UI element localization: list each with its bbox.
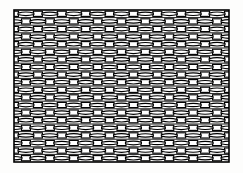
weave-connector bbox=[201, 87, 210, 92]
weave-connector bbox=[129, 102, 138, 107]
weave-strand bbox=[78, 126, 94, 130]
weave-connector bbox=[93, 140, 102, 145]
weave-strand bbox=[66, 103, 82, 107]
weave-strand bbox=[185, 149, 201, 152]
weave-strand bbox=[185, 43, 201, 46]
weave-connector bbox=[213, 64, 222, 69]
weave-strand bbox=[90, 12, 106, 15]
weave-strand bbox=[66, 12, 82, 16]
weave-connector bbox=[21, 19, 30, 24]
weave-connector bbox=[33, 102, 42, 107]
weave-connector bbox=[105, 11, 114, 16]
weave-strand bbox=[197, 141, 213, 144]
weave-strand bbox=[30, 35, 46, 39]
weave-strand bbox=[42, 103, 58, 106]
weave-connector bbox=[105, 57, 114, 62]
weave-connector bbox=[189, 64, 198, 69]
weave-connector bbox=[21, 110, 30, 115]
weave-strand bbox=[30, 65, 46, 69]
weave-strand bbox=[209, 103, 225, 107]
weave-strand bbox=[102, 96, 118, 99]
weave-strand bbox=[209, 42, 225, 46]
weave-connector bbox=[81, 42, 90, 47]
weave-strand bbox=[90, 58, 106, 61]
weave-connector bbox=[57, 42, 66, 47]
weave-connector bbox=[117, 140, 126, 145]
weave-connector bbox=[21, 140, 30, 145]
weave-strand bbox=[54, 50, 70, 53]
weave-connector bbox=[189, 80, 198, 85]
weave-connector bbox=[21, 49, 30, 54]
weave-connector bbox=[189, 34, 198, 39]
weave-strand bbox=[18, 88, 34, 92]
weave-strand bbox=[18, 134, 34, 138]
weave-connector bbox=[129, 118, 138, 123]
weave-connector bbox=[117, 64, 126, 69]
weave-connector bbox=[81, 148, 90, 153]
weave-strand bbox=[185, 134, 201, 137]
weave-connector bbox=[165, 80, 174, 85]
weave-strand bbox=[18, 149, 34, 153]
weave-connector bbox=[153, 87, 162, 92]
weave-strand bbox=[114, 103, 130, 107]
weave-connector bbox=[93, 95, 102, 100]
weave-connector bbox=[141, 156, 150, 161]
weave-strand bbox=[161, 42, 177, 46]
weave-connector bbox=[105, 72, 114, 77]
weave-strand bbox=[54, 141, 70, 144]
weave-strand bbox=[42, 119, 58, 122]
weave-connector bbox=[201, 118, 210, 123]
weave-connector bbox=[33, 72, 42, 77]
weave-strand bbox=[161, 27, 177, 31]
weave-strand bbox=[161, 118, 177, 122]
weave-connector bbox=[153, 118, 162, 123]
weave-strand bbox=[66, 118, 82, 122]
weave-strand bbox=[197, 50, 213, 53]
weave-strand bbox=[209, 58, 225, 62]
weave-connector bbox=[57, 148, 66, 153]
weave-connector bbox=[45, 125, 54, 130]
weave-strand bbox=[149, 20, 165, 23]
weave-connector bbox=[117, 34, 126, 39]
weave-connector bbox=[33, 87, 42, 92]
weave-strand bbox=[185, 27, 201, 30]
weave-connector bbox=[129, 148, 138, 153]
weave-connector bbox=[153, 26, 162, 31]
weave-strand bbox=[30, 50, 46, 54]
weave-strand bbox=[149, 65, 165, 68]
weave-strand bbox=[90, 73, 106, 76]
weave-connector bbox=[153, 57, 162, 62]
weave-strand bbox=[54, 81, 70, 84]
weave-connector bbox=[57, 87, 66, 92]
weave-strand bbox=[126, 65, 142, 69]
weave-strand bbox=[78, 156, 94, 160]
weave-strand bbox=[102, 65, 118, 68]
weave-connector bbox=[57, 118, 66, 123]
weave-connector bbox=[33, 42, 42, 47]
weave-connector bbox=[69, 95, 78, 100]
weave-connector bbox=[33, 148, 42, 153]
weave-connector bbox=[81, 87, 90, 92]
weave-strand bbox=[209, 134, 225, 138]
weave-connector bbox=[57, 11, 66, 16]
weave-strand bbox=[149, 96, 165, 99]
weave-strand bbox=[102, 157, 118, 160]
weave-strand bbox=[173, 50, 189, 54]
weave-connector bbox=[69, 125, 78, 130]
weave-strand bbox=[161, 149, 177, 153]
weave-strand bbox=[173, 141, 189, 145]
weave-strand bbox=[42, 88, 58, 91]
weave-strand bbox=[42, 73, 58, 76]
weave-strand bbox=[42, 58, 58, 61]
weave-strand bbox=[90, 134, 106, 137]
weave-strand bbox=[18, 27, 34, 31]
weave-strand bbox=[185, 103, 201, 106]
weave-connector bbox=[45, 110, 54, 115]
weave-strand bbox=[90, 119, 106, 122]
weave-connector bbox=[141, 125, 150, 130]
weave-connector bbox=[165, 140, 174, 145]
weave-connector bbox=[33, 133, 42, 138]
weave-strand bbox=[42, 12, 58, 15]
weave-connector bbox=[177, 102, 186, 107]
weave-connector bbox=[213, 80, 222, 85]
